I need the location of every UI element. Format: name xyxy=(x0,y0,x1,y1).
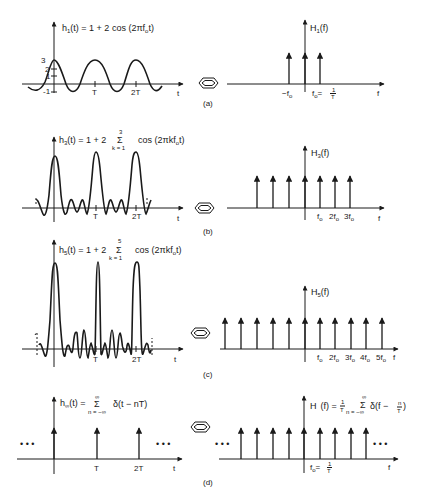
tick-3f0: 3fo xyxy=(344,212,355,222)
H3-label: H3(f) xyxy=(311,148,329,159)
tick-2f0: 2fo xyxy=(329,212,340,222)
panel-b-freq-plot: H3(f) fo 2fo 3fo f xyxy=(227,146,384,223)
svg-text:h∞(t) =: h∞(t) = xyxy=(60,398,86,409)
tick-neg-f0: −fo xyxy=(282,89,293,99)
svg-text:1: 1 xyxy=(328,461,332,467)
tick-f0-eq-1-over-T: fo= xyxy=(312,89,323,99)
svg-text:5: 5 xyxy=(118,238,122,244)
ellipsis-right: • • • xyxy=(373,439,387,449)
h5-equation: h5(t) = 1 + 2 5 Σ k = 1 cos (2πkfot) xyxy=(59,238,182,261)
H1-label: H1(f) xyxy=(310,23,328,34)
x-tick-T: T xyxy=(93,355,98,364)
h5-curve xyxy=(39,262,151,358)
fourier-pairs-figure: 3 2 1 -1 T 2T t h1(t) = 1 + 2 cos (2πfot… xyxy=(0,0,421,497)
ellipsis-left: • • • xyxy=(215,439,229,449)
tick-f0-eq-1-over-T: fo= xyxy=(310,463,321,473)
ellipsis-left: • • • xyxy=(20,439,34,449)
svg-text:cos (2πkfot): cos (2πkfot) xyxy=(138,135,185,146)
panel-b: T 2T t h3(t) = 1 + 2 3 Σ k = 1 cos (2πkf… xyxy=(22,129,384,236)
fourier-pair-hexagon-icon xyxy=(191,328,210,338)
panel-d-freq-plot: • • • • • • H(f) = 1 T ∞ Σ n = −∞ δ(f − … xyxy=(215,394,406,474)
svg-text:Σ: Σ xyxy=(94,399,100,409)
panel-b-time-plot: T 2T t h3(t) = 1 + 2 3 Σ k = 1 cos (2πkf… xyxy=(22,129,185,223)
panel-a-freq-plot: H1(f) −fo fo= 1 T f xyxy=(227,20,384,100)
h3-equation: h3(t) = 1 + 2 3 Σ k = 1 cos (2πkfot) xyxy=(59,129,185,151)
h-inf-equation: h∞(t) = ∞ Σ n = −∞ δ(t − nT) xyxy=(60,394,147,415)
tick-f0: fo xyxy=(317,212,323,222)
panel-a: 3 2 1 -1 T 2T t h1(t) = 1 + 2 cos (2πfot… xyxy=(22,20,384,108)
t-axis-label: t xyxy=(174,355,177,364)
svg-text:n = −∞: n = −∞ xyxy=(88,409,106,415)
x-tick-T: T xyxy=(92,88,97,97)
H5-label: H5(f) xyxy=(311,287,329,298)
caption-a: (a) xyxy=(203,99,213,108)
svg-text:δ(f −: δ(f − xyxy=(370,401,388,411)
panel-d-time-plot: • • • • • • T 2T t h∞(t) = ∞ Σ n = −∞ δ(… xyxy=(17,394,182,474)
H-inf-equation: H(f) = 1 T ∞ Σ n = −∞ δ(f − n T ) xyxy=(310,394,406,415)
tick-2f0: 2fo xyxy=(329,353,340,363)
tick-3f0: 3fo xyxy=(345,353,356,363)
t-axis-label: t xyxy=(177,89,180,98)
h1-equation: h1(t) = 1 + 2 cos (2πfot) xyxy=(62,23,154,34)
panel-c-time-plot: T 2T t h5(t) = 1 + 2 5 Σ k = 1 cos (2πkf… xyxy=(22,238,183,367)
h3-curve xyxy=(36,152,151,215)
f-axis-label: f xyxy=(393,353,396,362)
svg-text:T: T xyxy=(331,94,335,100)
y-tick-1: 1 xyxy=(46,72,51,81)
ellipsis-right: • • • xyxy=(156,439,170,449)
fourier-pair-hexagon-icon xyxy=(195,203,214,213)
fourier-pair-hexagon-icon xyxy=(199,78,218,88)
svg-text:Σ: Σ xyxy=(116,245,122,255)
f-axis-label: f xyxy=(388,463,391,472)
svg-text:n: n xyxy=(398,400,401,406)
caption-c: (c) xyxy=(203,370,213,379)
svg-text:h5(t) = 1 + 2: h5(t) = 1 + 2 xyxy=(59,245,106,256)
tick-4f0: 4fo xyxy=(360,353,371,363)
y-tick-3: 3 xyxy=(41,56,46,65)
tick-5f0: 5fo xyxy=(376,353,387,363)
x-tick-2T: 2T xyxy=(132,355,141,364)
svg-text:1: 1 xyxy=(332,87,336,93)
panel-a-time-plot: 3 2 1 -1 T 2T t h1(t) = 1 + 2 cos (2πfot… xyxy=(22,22,183,98)
svg-text:T: T xyxy=(397,408,401,414)
f-axis-label: f xyxy=(377,89,380,98)
f-axis-label: f xyxy=(378,214,381,223)
fourier-pair-hexagon-icon xyxy=(191,422,210,432)
svg-text:δ(t − nT): δ(t − nT) xyxy=(113,399,147,409)
svg-text:T: T xyxy=(340,407,344,413)
svg-text:k = 1: k = 1 xyxy=(112,145,126,151)
caption-d: (d) xyxy=(203,478,213,487)
svg-text:cos (2πkfot): cos (2πkfot) xyxy=(135,245,182,256)
t-axis-label: t xyxy=(177,214,180,223)
svg-text:Σ: Σ xyxy=(117,135,123,145)
svg-text:k = 1: k = 1 xyxy=(109,255,123,261)
tick-f0: fo xyxy=(317,353,323,363)
x-tick-2T: 2T xyxy=(131,88,140,97)
svg-text:1: 1 xyxy=(341,399,345,405)
svg-text:n = −∞: n = −∞ xyxy=(346,409,364,415)
panel-c-freq-plot: H5(f) fo 2fo 3fo 4fo 5fo f xyxy=(220,286,398,363)
y-tick-neg1: -1 xyxy=(43,87,51,96)
panel-c: T 2T t h5(t) = 1 + 2 5 Σ k = 1 cos (2πkf… xyxy=(22,238,398,379)
panel-d: • • • • • • T 2T t h∞(t) = ∞ Σ n = −∞ δ(… xyxy=(17,394,406,487)
caption-b: (b) xyxy=(203,227,213,236)
t-axis-label: t xyxy=(173,464,176,473)
x-tick-2T: 2T xyxy=(132,212,141,221)
x-tick-T: T xyxy=(94,464,99,473)
x-tick-2T: 2T xyxy=(134,464,143,473)
svg-text:): ) xyxy=(403,401,406,411)
svg-text:H(f) =: H(f) = xyxy=(310,401,337,411)
svg-text:T: T xyxy=(327,468,331,474)
svg-text:h3(t) = 1 + 2: h3(t) = 1 + 2 xyxy=(59,135,106,146)
x-tick-T: T xyxy=(93,212,98,221)
